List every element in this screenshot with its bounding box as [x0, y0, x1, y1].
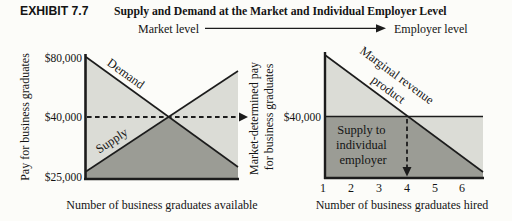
employer-x-axis-label: Number of business graduates hired — [316, 198, 489, 212]
supply-to-employer-label: Supply to individual employer — [336, 123, 390, 167]
market-ytick-25000: $25,000 — [45, 171, 83, 184]
exhibit-title: Supply and Demand at the Market and Indi… — [114, 5, 447, 18]
market-ytick-80000: $80,000 — [45, 52, 83, 65]
exhibit-figure: EXHIBIT 7.7 Supply and Demand at the Mar… — [0, 0, 512, 221]
figure-svg: EXHIBIT 7.7 Supply and Demand at the Mar… — [0, 0, 512, 221]
flow-arrowhead-icon — [376, 24, 386, 32]
employer-xtick-1: 1 — [320, 181, 326, 195]
employer-y-axis-label: Market-determined pay for business gradu… — [247, 59, 276, 175]
market-panel: $80,000 $40,000 $25,000 Pay for business… — [18, 52, 258, 212]
employer-xtick-6: 6 — [459, 181, 465, 195]
employer-xtick-3: 3 — [376, 181, 382, 195]
employer-xtick-4: 4 — [404, 181, 410, 195]
market-y-axis-label: Pay for business graduates — [18, 53, 32, 181]
market-ytick-40000: $40,000 — [45, 111, 83, 124]
employer-xtick-5: 5 — [432, 181, 438, 195]
flow-label-employer-level: Employer level — [394, 22, 468, 36]
market-x-axis-label: Number of business graduates available — [66, 198, 257, 212]
exhibit-label: EXHIBIT 7.7 — [20, 4, 89, 18]
employer-xtick-2: 2 — [348, 181, 354, 195]
employer-panel: $40,000 Market-determined pay for busine… — [247, 44, 488, 212]
flow-label-market-level: Market level — [138, 22, 200, 36]
employer-ytick-40000: $40,000 — [284, 111, 322, 124]
